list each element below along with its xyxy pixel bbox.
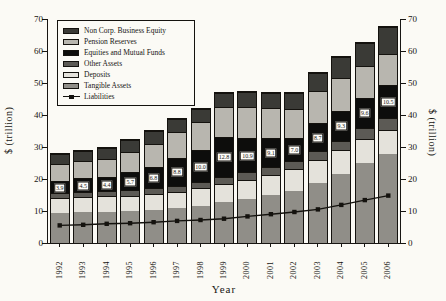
legend-color-swatch-icon	[63, 39, 79, 45]
x-axis-year-label: 2003	[313, 247, 322, 279]
liabilities-marker	[386, 193, 390, 197]
right-axis-tick	[401, 243, 406, 244]
legend-item-label: Deposits	[84, 70, 110, 79]
left-axis-tick-label: 50	[21, 78, 43, 89]
right-axis-tick-label: 30	[408, 142, 430, 153]
legend-item-label: Non Corp. Business Equity	[84, 26, 166, 35]
legend-color-swatch-icon	[63, 50, 79, 56]
right-axis-tick	[401, 115, 406, 116]
legend-color-swatch-icon	[63, 61, 79, 67]
liabilities-marker	[222, 217, 226, 221]
x-axis-year-label: 2006	[383, 247, 392, 279]
legend-item: Tangible Assets	[63, 80, 189, 91]
right-axis-tick	[401, 19, 406, 20]
liabilities-marker	[81, 223, 85, 227]
liabilities-marker	[292, 210, 296, 214]
legend-line-marker-icon	[69, 95, 74, 100]
x-axis-year-label: 2005	[360, 247, 369, 279]
left-axis-tick-label: 0	[21, 238, 43, 249]
right-axis-tick	[401, 83, 406, 84]
right-axis-tick	[401, 147, 406, 148]
legend-box: Non Corp. Business EquityPension Reserve…	[57, 20, 195, 106]
legend-item: Liabilities	[63, 91, 189, 102]
left-axis-tick-label: 10	[21, 206, 43, 217]
right-axis-tick-label: 50	[408, 78, 430, 89]
right-axis-tick-label: 10	[408, 206, 430, 217]
legend-item: Equities and Mutual Funds	[63, 47, 189, 58]
left-axis-tick-label: 70	[21, 14, 43, 25]
legend-item-label: Other Assets	[84, 59, 122, 68]
legend-color-swatch-icon	[63, 28, 79, 34]
x-axis-year-label: 1992	[55, 247, 64, 279]
x-axis-title: Year	[48, 283, 400, 295]
liabilities-marker	[198, 218, 202, 222]
liabilities-marker	[151, 220, 155, 224]
legend-item: Other Assets	[63, 58, 189, 69]
legend-line-swatch-icon	[63, 93, 80, 100]
left-axis-tick-label: 20	[21, 174, 43, 185]
legend-item: Pension Reserves	[63, 36, 189, 47]
x-axis-year-label: 1994	[102, 247, 111, 279]
x-axis-year-label: 1996	[149, 247, 158, 279]
left-axis-tick-label: 30	[21, 142, 43, 153]
x-axis-year-label: 2002	[289, 247, 298, 279]
liabilities-marker	[175, 219, 179, 223]
x-axis-year-label: 1993	[78, 247, 87, 279]
right-axis-tick-label: 0	[408, 238, 430, 249]
legend-item: Deposits	[63, 69, 189, 80]
x-axis-year-label: 1995	[125, 247, 134, 279]
liabilities-marker	[363, 198, 367, 202]
liabilities-marker	[339, 203, 343, 207]
legend-item-label: Equities and Mutual Funds	[84, 48, 165, 57]
liabilities-marker	[105, 222, 109, 226]
left-axis-title: $ (trillion)	[3, 75, 14, 185]
liabilities-marker	[316, 207, 320, 211]
legend-item-label: Tangible Assets	[84, 81, 131, 90]
x-axis-year-label: 2000	[242, 247, 251, 279]
x-axis-year-label: 2004	[336, 247, 345, 279]
right-axis-tick	[401, 51, 406, 52]
legend-item: Non Corp. Business Equity	[63, 25, 189, 36]
liabilities-marker	[269, 212, 273, 216]
right-axis-tick-label: 70	[408, 14, 430, 25]
x-axis-year-label: 1998	[196, 247, 205, 279]
x-axis-year-label: 2001	[266, 247, 275, 279]
x-axis-year-label: 1999	[219, 247, 228, 279]
right-axis-tick-label: 20	[408, 174, 430, 185]
legend-color-swatch-icon	[63, 83, 79, 89]
right-axis-title: $ (trillion)	[427, 78, 438, 188]
chart-figure: 3.94.54.45.76.88.810.012.810.99.17.08.79…	[0, 0, 446, 301]
liabilities-marker	[58, 223, 62, 227]
right-axis-tick	[401, 211, 406, 212]
legend-item-label: Liabilities	[84, 92, 114, 101]
legend-color-swatch-icon	[63, 72, 79, 78]
right-axis-tick	[401, 179, 406, 180]
x-axis-year-label: 1997	[172, 247, 181, 279]
right-axis-tick-label: 40	[408, 110, 430, 121]
liabilities-marker	[128, 221, 132, 225]
right-axis-tick-label: 60	[408, 46, 430, 57]
left-axis-tick-label: 60	[21, 46, 43, 57]
legend-item-label: Pension Reserves	[84, 37, 137, 46]
liabilities-marker	[245, 214, 249, 218]
left-axis-tick-label: 40	[21, 110, 43, 121]
